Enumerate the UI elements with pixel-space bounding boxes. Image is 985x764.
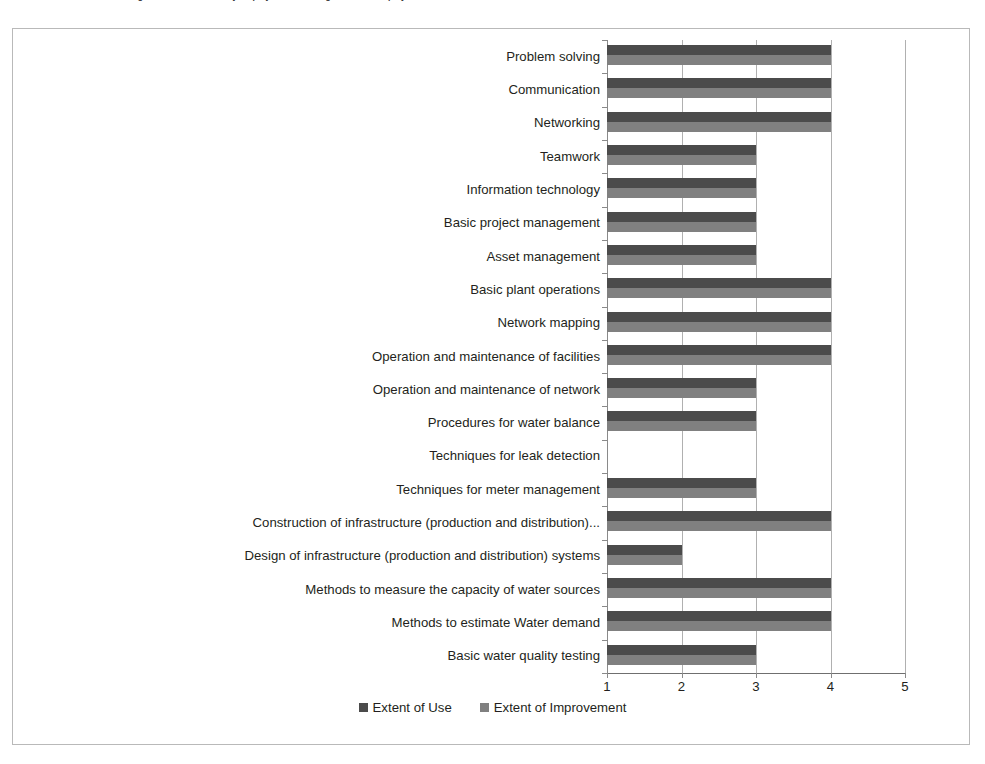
- bar-extent-of-improvement: [607, 255, 756, 265]
- bar-group: [607, 373, 905, 406]
- bar-extent-of-improvement: [607, 555, 682, 565]
- category-label: Networking: [40, 115, 600, 131]
- category-label: Basic plant operations: [40, 282, 600, 298]
- legend-entry: Extent of Use: [359, 700, 452, 715]
- x-tickmark-1: [607, 673, 608, 678]
- x-tickmark-2: [682, 673, 683, 678]
- category-label: Methods to estimate Water demand: [40, 615, 600, 631]
- bar-extent-of-use: [607, 112, 831, 122]
- bar-extent-of-improvement: [607, 55, 831, 65]
- category-label: Operation and maintenance of facilities: [40, 349, 600, 365]
- category-label: Basic water quality testing: [40, 648, 600, 664]
- category-label: Problem solving: [40, 49, 600, 65]
- bar-group: [607, 440, 905, 473]
- bar-extent-of-use: [607, 611, 831, 621]
- category-label: Information technology: [40, 182, 600, 198]
- legend-entry: Extent of Improvement: [480, 700, 627, 715]
- bar-extent-of-use: [607, 145, 756, 155]
- x-tick-label-1: 1: [592, 679, 622, 694]
- category-label: Techniques for leak detection: [40, 448, 600, 464]
- bar-extent-of-improvement: [607, 588, 831, 598]
- bar-group: [607, 540, 905, 573]
- bar-group: [607, 640, 905, 673]
- x-tick-label-2: 2: [667, 679, 697, 694]
- bar-group: [607, 107, 905, 140]
- x-tick-label-5: 5: [890, 679, 920, 694]
- bar-extent-of-improvement: [607, 655, 756, 665]
- bar-extent-of-use: [607, 645, 756, 655]
- bar-group: [607, 140, 905, 173]
- bar-extent-of-improvement: [607, 488, 756, 498]
- category-label: Operation and maintenance of network: [40, 382, 600, 398]
- category-label: Teamwork: [40, 149, 600, 165]
- bar-group: [607, 307, 905, 340]
- bar-extent-of-improvement: [607, 122, 831, 132]
- x-tickmark-5: [905, 673, 906, 678]
- bar-extent-of-use: [607, 378, 756, 388]
- bar-group: [607, 240, 905, 273]
- bar-extent-of-use: [607, 212, 756, 222]
- x-tickmark-3: [756, 673, 757, 678]
- category-label: Network mapping: [40, 315, 600, 331]
- category-label: Basic project management: [40, 215, 600, 231]
- bar-extent-of-improvement: [607, 388, 756, 398]
- legend-swatch-icon: [359, 703, 368, 712]
- bar-extent-of-improvement: [607, 188, 756, 198]
- bar-extent-of-use: [607, 278, 831, 288]
- bar-group: [607, 473, 905, 506]
- bar-extent-of-use: [607, 45, 831, 55]
- bar-extent-of-use: [607, 545, 682, 555]
- horizontal-bar-chart: Problem solvingCommunicationNetworkingTe…: [0, 0, 985, 764]
- bar-extent-of-use: [607, 411, 756, 421]
- chart-legend: Extent of UseExtent of Improvement: [0, 700, 985, 715]
- category-label: Methods to measure the capacity of water…: [40, 582, 600, 598]
- bar-group: [607, 406, 905, 439]
- bar-group: [607, 273, 905, 306]
- bar-extent-of-improvement: [607, 88, 831, 98]
- y-tickmark: [602, 673, 607, 674]
- bar-group: [607, 173, 905, 206]
- bar-group: [607, 40, 905, 73]
- bar-group: [607, 573, 905, 606]
- bar-group: [607, 606, 905, 639]
- bar-group: [607, 73, 905, 106]
- x-tick-label-3: 3: [741, 679, 771, 694]
- category-label: Design of infrastructure (production and…: [40, 548, 600, 564]
- bar-extent-of-use: [607, 345, 831, 355]
- bar-group: [607, 340, 905, 373]
- bar-extent-of-improvement: [607, 521, 831, 531]
- x-tickmark-4: [831, 673, 832, 678]
- category-label: Communication: [40, 82, 600, 98]
- legend-swatch-icon: [480, 703, 489, 712]
- bar-extent-of-use: [607, 578, 831, 588]
- bar-extent-of-use: [607, 178, 756, 188]
- bar-extent-of-use: [607, 511, 831, 521]
- bar-group: [607, 506, 905, 539]
- legend-label: Extent of Improvement: [494, 700, 627, 715]
- category-label: Techniques for meter management: [40, 482, 600, 498]
- bar-extent-of-improvement: [607, 621, 831, 631]
- gridline-5: [905, 40, 906, 673]
- bar-group: [607, 207, 905, 240]
- category-label: Asset management: [40, 249, 600, 265]
- bar-extent-of-use: [607, 478, 756, 488]
- bar-extent-of-use: [607, 245, 756, 255]
- bar-extent-of-improvement: [607, 355, 831, 365]
- bar-extent-of-improvement: [607, 222, 756, 232]
- bar-extent-of-improvement: [607, 322, 831, 332]
- category-label: Construction of infrastructure (producti…: [40, 515, 600, 531]
- x-tick-label-4: 4: [816, 679, 846, 694]
- bar-extent-of-improvement: [607, 288, 831, 298]
- bar-extent-of-improvement: [607, 155, 756, 165]
- bar-extent-of-use: [607, 78, 831, 88]
- category-label: Procedures for water balance: [40, 415, 600, 431]
- legend-label: Extent of Use: [373, 700, 452, 715]
- bar-extent-of-use: [607, 312, 831, 322]
- bar-extent-of-improvement: [607, 421, 756, 431]
